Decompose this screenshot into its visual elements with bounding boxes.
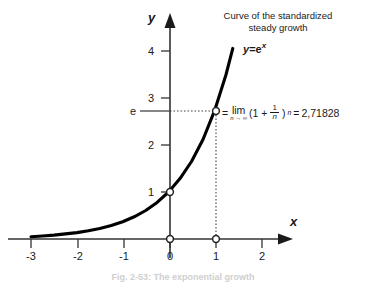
x-tick-label-minus2: -2 bbox=[64, 250, 92, 262]
y-tick-label-2: 2 bbox=[136, 139, 154, 151]
marker-e-point bbox=[213, 108, 220, 115]
marker-x1 bbox=[213, 236, 220, 243]
marker-points bbox=[167, 108, 220, 243]
marker-origin bbox=[167, 236, 174, 243]
figure-caption: Fig. 2-53: The exponential growth bbox=[0, 272, 366, 282]
limit-fraction-numerator: 1 bbox=[270, 104, 278, 112]
function-label: y=ex bbox=[243, 41, 266, 55]
x-tick-label-2: 2 bbox=[248, 250, 276, 262]
x-tick-label-1: 1 bbox=[202, 250, 230, 262]
marker-y1 bbox=[167, 189, 174, 196]
y-tick-label-4: 4 bbox=[136, 45, 154, 57]
limit-close-paren: ) bbox=[282, 107, 286, 119]
x-tick-label-minus1: -1 bbox=[110, 250, 138, 262]
limit-exponent: n bbox=[287, 109, 291, 116]
limit-equals-left: = bbox=[222, 107, 228, 119]
limit-fraction-denominator: n bbox=[270, 112, 278, 121]
figure-title: Curve of the standardized steady growth bbox=[190, 10, 366, 33]
function-label-exponent: x bbox=[262, 41, 266, 50]
figure-title-line-2: steady growth bbox=[190, 22, 366, 34]
y-tick-label-1: 1 bbox=[136, 186, 154, 198]
limit-equals-right: = bbox=[293, 107, 299, 119]
limit-value: 2,71828 bbox=[301, 107, 339, 119]
limit-expression: = lim n → ∞ (1 + 1 n )n = 2,71828 bbox=[222, 104, 339, 122]
x-axis-label: x bbox=[290, 214, 297, 229]
x-tick-label-0: 0 bbox=[156, 250, 184, 262]
limit-open-paren: (1 + bbox=[249, 107, 267, 119]
plot-canvas bbox=[0, 0, 366, 282]
figure-title-line-1: Curve of the standardized bbox=[190, 10, 366, 22]
limit-subscript: n → ∞ bbox=[230, 115, 247, 121]
limit-lim-text: lim bbox=[232, 105, 245, 116]
x-axis-ticks bbox=[31, 239, 262, 248]
e-axis-label: e bbox=[120, 105, 136, 117]
exponential-curve bbox=[31, 48, 233, 236]
exponential-growth-figure: y x Curve of the standardized steady gro… bbox=[0, 0, 366, 282]
limit-fraction: 1 n bbox=[270, 104, 278, 122]
y-axis-ticks bbox=[161, 51, 170, 192]
x-tick-label-minus3: -3 bbox=[17, 250, 45, 262]
y-tick-label-3: 3 bbox=[136, 92, 154, 104]
y-axis-label: y bbox=[148, 10, 155, 25]
y-axis bbox=[165, 13, 176, 258]
limit-operator: lim n → ∞ bbox=[230, 105, 247, 122]
